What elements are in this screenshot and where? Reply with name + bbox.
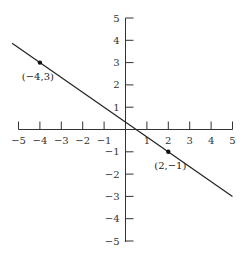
x-tick-label: 5	[229, 135, 235, 146]
x-tick-label: 4	[208, 135, 214, 146]
series-line	[12, 43, 232, 196]
x-tick-label: 2	[165, 135, 171, 146]
x-tick-label: −5	[11, 135, 26, 146]
y-tick-label: −3	[105, 191, 120, 202]
series	[12, 43, 232, 196]
y-tick-label: −2	[105, 169, 120, 180]
y-tick-label: 3	[113, 57, 119, 68]
data-point	[38, 60, 42, 64]
y-tick-label: −5	[105, 236, 120, 247]
x-tick-label: −1	[97, 135, 112, 146]
y-tick-label: −4	[105, 213, 120, 224]
data-point-label: (2,−1)	[154, 160, 186, 171]
data-point-label: (−4,3)	[22, 71, 54, 82]
line-chart: −5−4−3−2−112345−5−4−3−2−112345 (−4,3)(2,…	[0, 0, 246, 257]
x-tick-label: −4	[33, 135, 48, 146]
x-tick-label: −3	[54, 135, 69, 146]
axes	[19, 18, 233, 242]
y-tick-label: 1	[113, 102, 119, 113]
x-tick-label: 1	[144, 135, 150, 146]
x-tick-label: 3	[187, 135, 193, 146]
y-tick-label: 4	[113, 35, 119, 46]
x-tick-label: −2	[75, 135, 90, 146]
y-tick-label: −1	[105, 146, 120, 157]
y-tick-label: 5	[113, 13, 119, 24]
data-point	[166, 150, 170, 154]
y-tick-label: 2	[113, 79, 119, 90]
